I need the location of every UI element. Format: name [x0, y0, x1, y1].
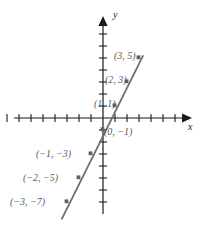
coordinate-plane-svg — [0, 0, 204, 228]
marker-point-3 — [137, 55, 141, 59]
marker-point-m3 — [65, 199, 69, 203]
x-axis-label: x — [188, 122, 192, 132]
point-label-0-neg1: (0, −1) — [104, 126, 132, 137]
plotted-line — [62, 55, 144, 219]
point-label-1-1: (1, 1) — [94, 98, 116, 109]
point-label-neg1-neg3: (−1, −3) — [36, 148, 71, 159]
point-label-neg2-neg5: (−2, −5) — [23, 172, 58, 183]
marker-point-m2 — [77, 175, 81, 179]
marker-point-m1 — [89, 151, 93, 155]
point-label-2-3: (2, 3) — [105, 74, 127, 85]
graph-figure: y x (3, 5) (2, 3) (1, 1) (0, −1) (−1, −3… — [0, 0, 204, 228]
y-axis-arrow-icon — [98, 16, 107, 26]
y-axis-label: y — [113, 10, 117, 20]
point-label-3-5: (3, 5) — [114, 50, 136, 61]
point-label-neg3-neg7: (−3, −7) — [10, 196, 45, 207]
